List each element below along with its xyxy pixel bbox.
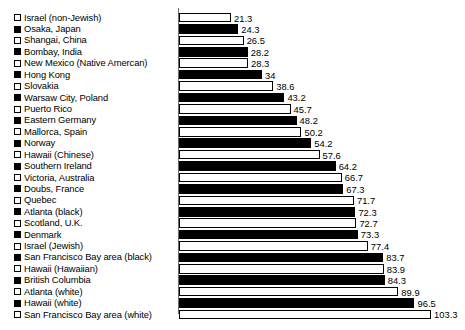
bar-value-label: 57.6 [320,150,341,161]
bar-value-label: 66.7 [342,172,363,183]
bar-value-label: 103.3 [431,309,457,320]
bar [179,173,342,183]
bar [179,13,231,23]
category-label: Hawaii (Hawaiian) [24,264,98,274]
category-label: San Francisco Bay area (black) [24,252,152,262]
bar-value-label: 64.2 [336,161,357,172]
bar [179,138,311,148]
category-label: San Francisco Bay area (white) [24,310,152,320]
category-label: Eastern Germany [24,115,96,125]
bar-value-label: 83.7 [383,252,404,263]
bar [179,70,262,80]
category-label: Atlanta (white) [24,287,82,297]
category-label: Hawaii (white) [24,298,81,308]
bar [179,116,297,126]
legend-swatch-icon [14,254,21,261]
legend-swatch-icon [14,117,21,124]
bar [179,218,356,228]
legend-swatch-icon [14,106,21,113]
legend-swatch-icon [14,83,21,90]
category-label: Denmark [24,230,61,240]
bar [179,93,284,103]
category-label: Puerto Rico [24,104,72,114]
bar [179,241,368,251]
bar [179,264,384,274]
bar-value-label: 89.9 [398,287,419,298]
legend-swatch-icon [14,71,21,78]
bar-value-label: 83.9 [384,264,405,275]
legend-swatch-icon [14,243,21,250]
category-label: Quebec [24,195,56,205]
legend-swatch-icon [14,265,21,272]
legend-swatch-icon [14,48,21,55]
bar [179,298,414,308]
bar-value-label: 72.3 [355,207,376,218]
legend-swatch-icon [14,37,21,44]
bar-value-label: 67.3 [343,184,364,195]
bar-chart: Israel (non-Jewish)21.3Osaka, Japan24.3S… [0,0,465,330]
bar [179,275,385,285]
legend-swatch-icon [14,60,21,67]
bar-value-label: 24.3 [238,24,259,35]
bar [179,161,336,171]
bar [179,104,291,114]
legend-swatch-icon [14,151,21,158]
bar [179,253,383,263]
legend-swatch-icon [14,163,21,170]
bar [179,310,431,320]
bar-value-label: 77.4 [368,241,389,252]
category-label: Scotland, U.K. [24,218,83,228]
legend-swatch-icon [14,231,21,238]
bar [179,207,355,217]
bar-value-label: 48.2 [297,115,318,126]
chart-row: San Francisco Bay area (white)103.3 [0,308,465,320]
bar-value-label: 26.5 [244,35,265,46]
legend-swatch-icon [14,140,21,147]
bar [179,24,238,34]
category-label: Victoria, Australia [24,173,94,183]
bar-value-label: 73.3 [358,229,379,240]
category-label: British Columbia [24,275,91,285]
bar [179,230,358,240]
legend-swatch-icon [14,14,21,21]
bar-value-label: 84.3 [385,275,406,286]
category-label: Shangai, China [24,35,87,45]
legend-swatch-icon [14,288,21,295]
legend-swatch-icon [14,185,21,192]
category-label: Israel (Jewish) [24,241,83,251]
bar [179,127,301,137]
bar-value-label: 38.6 [273,81,294,92]
legend-swatch-icon [14,26,21,33]
bar [179,81,273,91]
bar-value-label: 28.2 [248,47,269,58]
category-label: New Mexico (Native Amercan) [24,58,147,68]
bar-value-label: 45.7 [291,104,312,115]
bar-value-label: 28.3 [248,58,269,69]
category-label: Southern Ireland [24,161,92,171]
bar [179,184,343,194]
legend-swatch-icon [14,197,21,204]
category-label: Warsaw City, Poland [24,93,108,103]
bar-value-label: 72.7 [356,218,377,229]
bar-value-label: 54.2 [311,138,332,149]
legend-swatch-icon [14,208,21,215]
category-label: Hong Kong [24,70,70,80]
bar [179,36,244,46]
category-label: Doubs, France [24,184,84,194]
legend-swatch-icon [14,220,21,227]
category-label: Hawaii (Chinese) [24,150,94,160]
bar-value-label: 43.2 [284,92,305,103]
legend-swatch-icon [14,311,21,318]
bar [179,150,320,160]
bar-value-label: 21.3 [231,13,252,24]
legend-swatch-icon [14,94,21,101]
category-label: Slovakia [24,81,59,91]
legend-swatch-icon [14,300,21,307]
category-label: Israel (non-Jewish) [24,13,101,23]
bar-value-label: 50.2 [301,127,322,138]
legend-swatch-icon [14,174,21,181]
bar-value-label: 96.5 [414,298,435,309]
legend-swatch-icon [14,277,21,284]
bar-value-label: 71.7 [354,195,375,206]
category-label: Atlanta (black) [24,207,82,217]
